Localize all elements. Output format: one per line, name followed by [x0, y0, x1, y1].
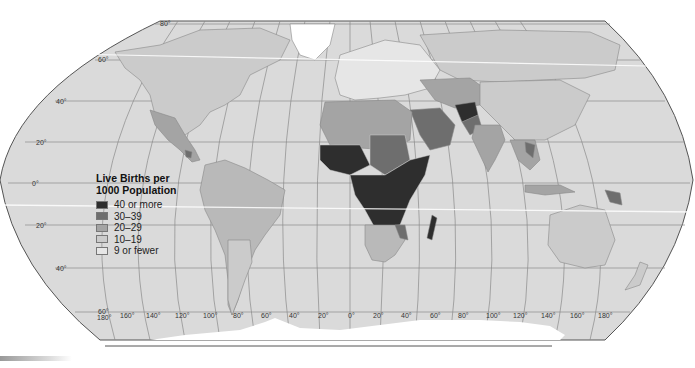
svg-text:120°: 120° — [513, 312, 528, 319]
legend-item-20-29: 20–29 — [96, 222, 177, 234]
svg-text:120°: 120° — [175, 312, 190, 319]
svg-text:100°: 100° — [203, 312, 218, 319]
svg-text:0°: 0° — [348, 312, 355, 319]
swatch-20-29 — [96, 224, 108, 232]
svg-text:80°: 80° — [458, 312, 469, 319]
svg-text:180°: 180° — [97, 314, 112, 321]
svg-text:20°: 20° — [318, 312, 329, 319]
legend-item-10-19: 10–19 — [96, 234, 177, 246]
svg-text:140°: 140° — [146, 312, 161, 319]
svg-text:40°: 40° — [401, 312, 412, 319]
swatch-40-plus — [96, 201, 108, 209]
russia — [420, 30, 620, 82]
lat-label-20n: 20° — [36, 139, 47, 146]
svg-text:160°: 160° — [570, 312, 585, 319]
svg-text:60°: 60° — [430, 312, 441, 319]
legend-item-30-39: 30–39 — [96, 211, 177, 223]
svg-text:60°: 60° — [261, 312, 272, 319]
svg-text:40°: 40° — [289, 312, 300, 319]
map-legend: Live Births per 1000 Population 40 or mo… — [96, 172, 177, 257]
lat-label-40s: 40° — [56, 265, 67, 272]
lat-label-60n: 60° — [98, 56, 109, 63]
svg-text:80°: 80° — [233, 312, 244, 319]
lat-label-40n: 40° — [56, 98, 67, 105]
legend-item-40-plus: 40 or more — [96, 199, 177, 211]
footer-gradient-bar — [0, 356, 72, 361]
svg-text:180°: 180° — [598, 312, 613, 319]
svg-text:20°: 20° — [373, 312, 384, 319]
lat-label-0: 0° — [32, 180, 39, 187]
swatch-9-fewer — [96, 247, 108, 255]
swatch-30-39 — [96, 212, 108, 220]
svg-text:100°: 100° — [486, 312, 501, 319]
swatch-10-19 — [96, 235, 108, 243]
australia — [548, 205, 615, 268]
svg-text:160°: 160° — [120, 312, 135, 319]
legend-item-9-fewer: 9 or fewer — [96, 245, 177, 257]
legend-title-line1: Live Births per — [96, 172, 177, 184]
legend-title-line2: 1000 Population — [96, 184, 177, 196]
svg-text:140°: 140° — [541, 312, 556, 319]
lat-label-80n: 80° — [160, 20, 171, 27]
lat-label-20s: 20° — [36, 222, 47, 229]
